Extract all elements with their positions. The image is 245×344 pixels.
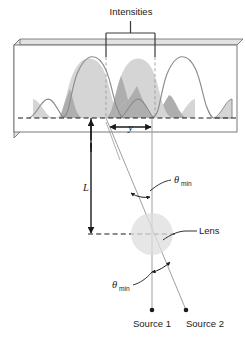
distance-label-L: L: [82, 182, 89, 193]
theta-min-lower-annotation: [133, 262, 170, 285]
theta-subscript-upper: min: [181, 180, 192, 187]
lens-label: Lens: [199, 225, 220, 236]
theta-min-lower-label: θ min: [112, 279, 130, 292]
theta-min-upper-annotation: [131, 180, 171, 197]
source-1-dot: [150, 308, 155, 313]
intensities-label: Intensities: [110, 6, 153, 17]
theta-subscript-lower: min: [119, 285, 130, 292]
theta-symbol-upper: θ: [174, 174, 179, 185]
source-1-label: Source 1: [133, 318, 171, 329]
physics-diagram-figure: Intensities y L θ min θ min Lens Source …: [0, 0, 245, 344]
theta-min-upper-leader: [150, 180, 171, 191]
separation-label-y: y: [127, 122, 133, 133]
theta-symbol-lower: θ: [112, 279, 117, 290]
theta-min-upper-label: θ min: [174, 174, 192, 187]
theta-min-lower-leader: [133, 272, 152, 285]
diagram-canvas: Intensities y L θ min θ min Lens Source …: [0, 0, 245, 344]
source-2-dot: [184, 308, 189, 313]
source-2-label: Source 2: [186, 318, 224, 329]
screen-top-bevel: [14, 39, 243, 45]
lens-circle: [131, 213, 173, 255]
